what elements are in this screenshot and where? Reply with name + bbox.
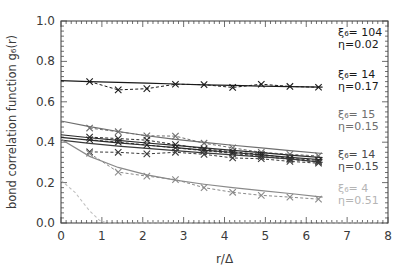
series-fit-line [61, 139, 323, 197]
x-tick-label: 5 [262, 229, 270, 243]
annotation-ann-1: ξ₆= 104η=0.02 [338, 26, 382, 51]
series-xi6-14-eta015-c [61, 140, 323, 166]
annotation-eta: η=0.02 [338, 38, 379, 51]
y-tick-label: 0.0 [36, 216, 55, 230]
y-tick-label: 0.4 [36, 135, 55, 149]
y-tick-label: 0.6 [36, 95, 55, 109]
data-point-marker [144, 85, 150, 91]
series-xi6-14-eta017 [61, 78, 323, 93]
x-tick-label: 7 [343, 229, 351, 243]
series-data-line [90, 153, 319, 199]
annotation-eta: η=0.51 [338, 194, 379, 207]
series-xi6-15-eta015 [61, 121, 323, 159]
annotation-ann-4: ξ₆= 14η=0.15 [338, 148, 379, 173]
annotation-eta: η=0.15 [338, 160, 379, 173]
y-tick-label: 1.0 [36, 14, 55, 28]
y-axis-label: bond correlation function g₆(r) [5, 35, 19, 209]
y-tick-label: 0.8 [36, 54, 55, 68]
x-tick-label: 8 [384, 229, 392, 243]
x-tick-label: 6 [302, 229, 310, 243]
series-fit-line [61, 140, 323, 162]
annotation-eta: η=0.17 [338, 80, 379, 93]
annotation-ann-5: ξ₆= 4η=0.51 [338, 182, 379, 207]
series-fit-line [61, 81, 323, 87]
x-tick-label: 2 [139, 229, 147, 243]
figure-root: 0123456780.00.20.40.60.81.0r/Δbond corre… [0, 0, 410, 269]
annotation-eta: η=0.15 [338, 120, 379, 133]
correlation-plot: 0123456780.00.20.40.60.81.0r/Δbond corre… [0, 0, 410, 269]
data-point-marker [201, 184, 207, 190]
x-axis-label: r/Δ [216, 252, 234, 266]
y-tick-label: 0.2 [36, 176, 55, 190]
annotation-ann-3: ξ₆= 15η=0.15 [338, 108, 379, 133]
x-tick-label: 3 [180, 229, 188, 243]
x-tick-label: 4 [221, 229, 229, 243]
data-point-marker [86, 150, 92, 156]
annotation-ann-2: ξ₆= 14η=0.17 [338, 68, 379, 93]
x-tick-label: 0 [57, 229, 65, 243]
x-tick-label: 1 [98, 229, 106, 243]
